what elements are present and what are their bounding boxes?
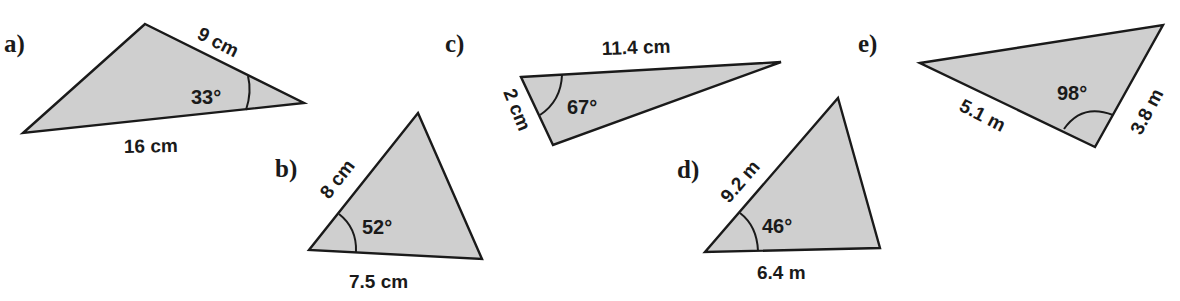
side-a-2: 16 cm [124, 135, 178, 157]
triangle-c: c) 11.4 cm 2 cm 67° [445, 30, 781, 145]
label-e: e) [858, 30, 877, 58]
side-d-2: 6.4 m [757, 262, 806, 283]
triangle-a-shape [23, 24, 304, 133]
triangle-e: e) 98° 5.1 m 3.8 m [858, 25, 1167, 147]
angle-e: 98° [1057, 82, 1087, 104]
angle-b: 52° [362, 216, 392, 238]
triangle-b: b) 8 cm 52° 7.5 cm [275, 113, 482, 292]
side-e-2: 3.8 m [1126, 85, 1167, 138]
triangle-d: d) 9.2 m 46° 6.4 m [677, 98, 880, 283]
triangle-diagram: a) 9 cm 33° 16 cm b) 8 cm 52° 7.5 cm c) … [0, 0, 1180, 301]
label-d: d) [677, 156, 699, 184]
angle-a: 33° [191, 86, 221, 108]
label-b: b) [275, 155, 297, 183]
triangle-c-shape [521, 62, 781, 145]
angle-c: 67° [567, 96, 597, 118]
side-b-2: 7.5 cm [349, 271, 408, 292]
label-a: a) [4, 30, 25, 58]
side-c-1: 11.4 cm [601, 36, 670, 59]
triangle-a: a) 9 cm 33° 16 cm [4, 23, 304, 157]
angle-d: 46° [762, 215, 792, 237]
label-c: c) [445, 30, 464, 58]
